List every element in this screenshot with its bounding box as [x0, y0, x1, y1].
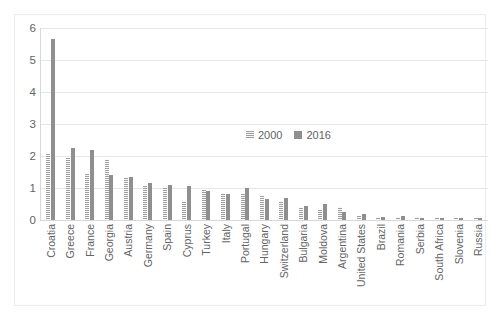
bar-group: [371, 28, 390, 220]
bar-group: [255, 28, 274, 220]
bar-2000-united-states[interactable]: [357, 216, 361, 220]
bar-2000-switzerland[interactable]: [279, 201, 283, 220]
bar-group: [235, 28, 254, 220]
bar-2016-south-africa[interactable]: [440, 218, 444, 220]
bar-2000-georgia[interactable]: [105, 159, 109, 220]
bar-2016-argentina[interactable]: [342, 212, 346, 220]
bar-2000-spain[interactable]: [163, 188, 167, 220]
bar-2016-austria[interactable]: [129, 177, 133, 220]
x-axis-label-text: Greece: [65, 224, 76, 258]
bar-2016-greece[interactable]: [71, 148, 75, 220]
x-axis-label-russia: Russia: [468, 224, 487, 319]
chart-container: 6 5 4 3 2 1 0 2000 2016 CroatiaGreeceFra…: [0, 0, 501, 321]
bar-2016-bulgaria[interactable]: [304, 206, 308, 220]
bar-2000-slovenia[interactable]: [454, 218, 458, 220]
legend-entry-2016[interactable]: 2016: [294, 130, 330, 141]
bar-2016-serbia[interactable]: [420, 218, 424, 220]
bar-group: [274, 28, 293, 220]
bar-2000-croatia[interactable]: [46, 154, 50, 220]
x-axis-label-text: Cyprus: [181, 224, 192, 257]
bar-2016-cyprus[interactable]: [187, 186, 191, 220]
x-axis-label-georgia: Georgia: [99, 224, 118, 319]
x-axis-label-text: Switzerland: [279, 224, 290, 278]
bar-2000-serbia[interactable]: [415, 217, 419, 220]
bar-2000-cyprus[interactable]: [182, 201, 186, 220]
x-axis-label-text: Georgia: [104, 224, 115, 261]
x-axis-category-labels: CroatiaGreeceFranceGeorgiaAustriaGermany…: [41, 224, 488, 319]
x-axis-label-argentina: Argentina: [332, 224, 351, 319]
x-axis-label-south-africa: South Africa: [429, 224, 448, 319]
bar-2016-france[interactable]: [90, 150, 94, 220]
bar-group: [391, 28, 410, 220]
x-axis-label-text: Serbia: [414, 224, 425, 254]
bar-2016-croatia[interactable]: [51, 39, 55, 220]
bar-2000-brazil[interactable]: [376, 217, 380, 220]
bar-group: [429, 28, 448, 220]
legend-swatch-2000-icon: [246, 131, 254, 139]
bar-group: [449, 28, 468, 220]
bar-2016-spain[interactable]: [168, 185, 172, 220]
x-axis-label-text: Spain: [162, 224, 173, 251]
bar-2016-romania[interactable]: [401, 216, 405, 220]
x-axis-label-text: United States: [356, 224, 367, 287]
bar-2016-portugal[interactable]: [245, 188, 249, 220]
bar-2016-georgia[interactable]: [109, 175, 113, 220]
bar-group: [332, 28, 351, 220]
x-axis-label-text: Brazil: [376, 224, 387, 250]
bar-2000-argentina[interactable]: [338, 207, 342, 220]
bar-group: [410, 28, 429, 220]
x-axis-label-text: Moldova: [317, 224, 328, 264]
x-axis-label-text: Austria: [123, 224, 134, 257]
bar-2016-united-states[interactable]: [362, 214, 366, 220]
bar-2000-romania[interactable]: [396, 217, 400, 220]
bar-group: [196, 28, 215, 220]
bar-group: [41, 28, 60, 220]
chart-legend: 2000 2016: [246, 128, 331, 142]
x-axis-label-text: Croatia: [45, 224, 56, 258]
x-axis-label-text: Germany: [143, 224, 154, 267]
bar-2000-russia[interactable]: [474, 218, 478, 220]
bar-2000-italy[interactable]: [221, 193, 225, 220]
bar-group: [293, 28, 312, 220]
x-axis-label-text: Portugal: [240, 224, 251, 263]
x-axis-label-text: Romania: [395, 224, 406, 266]
gridline-0-baseline: [40, 220, 488, 221]
legend-entry-2000[interactable]: 2000: [246, 130, 282, 141]
x-axis-label-hungary: Hungary: [255, 224, 274, 319]
x-axis-label-brazil: Brazil: [371, 224, 390, 319]
bar-2000-france[interactable]: [85, 174, 89, 220]
bar-2000-moldova[interactable]: [318, 210, 322, 220]
x-axis-label-turkey: Turkey: [196, 224, 215, 319]
bar-2016-russia[interactable]: [478, 218, 482, 220]
bar-group: [352, 28, 371, 220]
bar-2016-germany[interactable]: [148, 183, 152, 220]
bar-2016-slovenia[interactable]: [459, 218, 463, 220]
x-axis-label-croatia: Croatia: [41, 224, 60, 319]
x-axis-label-text: Argentina: [337, 224, 348, 269]
bar-2016-brazil[interactable]: [381, 217, 385, 220]
bar-2000-bulgaria[interactable]: [299, 207, 303, 220]
bar-group: [60, 28, 79, 220]
x-axis-label-austria: Austria: [119, 224, 138, 319]
bar-group: [138, 28, 157, 220]
x-axis-label-text: Slovenia: [453, 224, 464, 264]
bar-2016-moldova[interactable]: [323, 204, 327, 220]
bar-2000-portugal[interactable]: [241, 194, 245, 220]
bar-2016-hungary[interactable]: [265, 199, 269, 220]
bar-2000-hungary[interactable]: [260, 196, 264, 220]
bar-group: [158, 28, 177, 220]
bar-2016-italy[interactable]: [226, 194, 230, 220]
bar-2000-germany[interactable]: [143, 186, 147, 220]
bar-2000-greece[interactable]: [66, 158, 70, 220]
bar-2000-south-africa[interactable]: [435, 218, 439, 220]
bar-2016-turkey[interactable]: [206, 191, 210, 220]
bar-group: [468, 28, 487, 220]
legend-label-2016: 2016: [306, 130, 330, 141]
x-axis-label-bulgaria: Bulgaria: [293, 224, 312, 319]
bar-2016-switzerland[interactable]: [284, 198, 288, 220]
x-axis-label-italy: Italy: [216, 224, 235, 319]
bar-2000-austria[interactable]: [124, 178, 128, 220]
bar-series-layer: [41, 28, 488, 220]
bar-group: [119, 28, 138, 220]
bar-2000-turkey[interactable]: [202, 190, 206, 220]
